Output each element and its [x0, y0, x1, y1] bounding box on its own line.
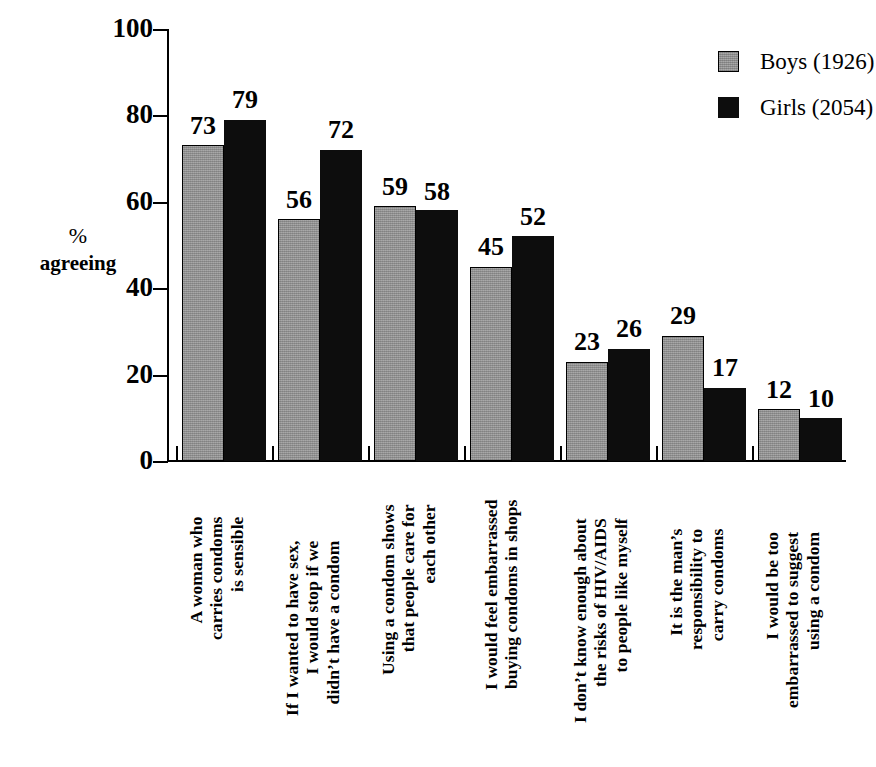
bar-girls-6	[800, 418, 842, 461]
category-label-6: I would be too embarrassed to suggest us…	[762, 532, 823, 708]
category-label-4-line-2: to people like myself	[611, 518, 631, 723]
x-tick-mark-1	[272, 446, 274, 461]
y-axis-title: % agreeing	[18, 222, 138, 276]
legend-swatch-girls-icon	[718, 97, 739, 118]
bar-value-boys-1: 56	[274, 187, 324, 213]
category-label-0-line-2: is sensible	[227, 517, 247, 641]
y-tick-label-60: 60	[91, 188, 153, 215]
category-label-0-line-0: A woman who	[186, 517, 206, 641]
legend: Boys (1926) Girls (2054)	[718, 46, 876, 138]
y-axis-title-line2: agreeing	[18, 250, 138, 276]
category-label-2-line-1: that people care for	[398, 504, 418, 675]
category-label-4-line-0: I don’t know enough about	[570, 518, 590, 723]
y-tick-label-20: 20	[91, 361, 153, 388]
y-axis-title-line1: %	[18, 222, 138, 250]
category-label-1: If I wanted to have sex, I would stop if…	[282, 541, 343, 716]
bar-chart: 100 80 60 40 20 0 % agreeing 73 79 56 72	[0, 0, 876, 767]
category-label-1-line-2: didn’t have a condom	[323, 541, 343, 716]
category-label-4: I don’t know enough about the risks of H…	[570, 518, 631, 723]
category-label-3: I would feel embarrassed buying condoms …	[481, 499, 522, 690]
category-label-1-line-1: I would stop if we	[302, 541, 322, 716]
category-label-2: Using a condom shows that people care fo…	[378, 504, 439, 675]
y-tick-mark-60	[153, 202, 168, 204]
bar-girls-1	[320, 150, 362, 461]
x-tick-mark-4	[560, 446, 562, 461]
category-label-6-line-0: I would be too	[762, 532, 782, 708]
bar-boys-1	[278, 219, 320, 461]
bar-boys-6	[758, 409, 800, 461]
y-tick-label-40: 40	[91, 274, 153, 301]
bar-girls-4	[608, 349, 650, 461]
category-label-6-line-2: using a condom	[803, 532, 823, 708]
category-label-0: A woman who carries condoms is sensible	[186, 517, 247, 641]
x-tick-mark-2	[368, 446, 370, 461]
category-label-5-line-1: responsibility to	[686, 529, 706, 650]
category-label-2-line-2: each other	[419, 504, 439, 675]
category-label-5-line-2: carry condoms	[707, 529, 727, 650]
y-tick-mark-100	[153, 29, 168, 31]
legend-label-girls: Girls (2054)	[760, 92, 873, 123]
y-tick-mark-40	[153, 288, 168, 290]
x-tick-mark-5	[656, 446, 658, 461]
y-tick-label-100: 100	[91, 15, 153, 42]
bar-boys-5	[662, 336, 704, 461]
x-tick-mark-3	[464, 446, 466, 461]
y-axis-line	[167, 29, 169, 462]
y-tick-mark-0	[153, 461, 168, 463]
bar-value-boys-0: 73	[178, 113, 228, 139]
x-tick-mark-6	[752, 446, 754, 461]
bar-boys-4	[566, 362, 608, 461]
category-label-2-line-0: Using a condom shows	[378, 504, 398, 675]
bar-boys-3	[470, 267, 512, 462]
bar-value-girls-1: 72	[316, 117, 366, 143]
bar-value-girls-0: 79	[220, 87, 270, 113]
bar-girls-0	[224, 120, 266, 462]
category-label-5: It is the man’s responsibility to carry …	[666, 529, 727, 650]
category-label-5-line-0: It is the man’s	[666, 529, 686, 650]
bar-boys-2	[374, 206, 416, 461]
bar-value-girls-6: 10	[796, 386, 846, 412]
category-label-3-line-1: buying condoms in shops	[501, 499, 521, 690]
bar-boys-0	[182, 145, 224, 461]
legend-swatch-boys-icon	[718, 51, 739, 72]
bar-girls-5	[704, 388, 746, 462]
y-tick-label-80: 80	[91, 101, 153, 128]
bar-value-girls-3: 52	[508, 204, 558, 230]
bar-girls-2	[416, 210, 458, 461]
legend-label-boys: Boys (1926)	[760, 46, 874, 77]
y-tick-mark-20	[153, 375, 168, 377]
category-label-6-line-1: embarrassed to suggest	[782, 532, 802, 708]
bar-value-girls-5: 17	[700, 355, 750, 381]
y-tick-label-0: 0	[91, 447, 153, 474]
category-label-3-line-0: I would feel embarrassed	[481, 499, 501, 690]
bar-value-boys-5: 29	[658, 303, 708, 329]
category-label-1-line-0: If I wanted to have sex,	[282, 541, 302, 716]
legend-item-boys: Boys (1926)	[718, 46, 876, 92]
category-label-4-line-1: the risks of HIV/AIDS	[590, 518, 610, 723]
bar-value-girls-2: 58	[412, 179, 462, 205]
bar-value-boys-3: 45	[466, 234, 516, 260]
legend-item-girls: Girls (2054)	[718, 92, 876, 138]
bar-value-girls-4: 26	[604, 316, 654, 342]
x-tick-mark-0	[176, 446, 178, 461]
bar-girls-3	[512, 236, 554, 461]
category-label-0-line-1: carries condoms	[206, 517, 226, 641]
y-tick-mark-80	[153, 115, 168, 117]
